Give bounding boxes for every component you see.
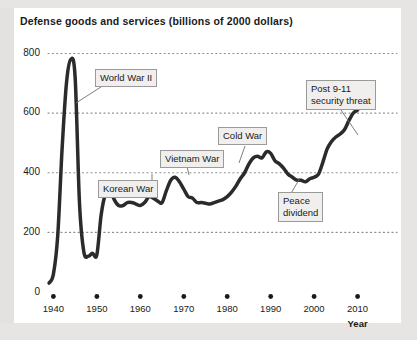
y-tick-label-800: 800 [10,47,40,58]
annotation-vietnam-war: Vietnam War [160,150,224,168]
annotation-peace-dividend: Peace dividend [278,192,323,222]
annotation-cold-war-label: Cold War [223,130,262,141]
x-tick-label-1990: 1990 [254,303,288,314]
y-tick-label-600: 600 [10,106,40,117]
annotation-post-911-line1: Post 9-11 [311,83,371,95]
x-tick-2010 [355,294,360,299]
leader-world-war-ii [76,85,104,103]
x-tick-2000 [312,294,317,299]
x-tick-label-1950: 1950 [80,303,114,314]
x-tick-marks [51,294,360,299]
annotation-post-911-line2: security threat [311,95,371,107]
x-tick-1970 [181,294,186,299]
annotation-world-war-ii-label: World War II [100,72,152,83]
x-tick-label-2000: 2000 [297,303,331,314]
annotation-post-911: Post 9-11 security threat [306,80,376,110]
x-axis-title: Year [338,318,378,329]
y-tick-label-0: 0 [10,286,40,297]
x-tick-label-2010: 2010 [341,303,375,314]
annotation-peace-dividend-line2: dividend [283,207,318,219]
x-tick-label-1970: 1970 [167,303,201,314]
x-tick-1980 [225,294,230,299]
x-tick-1940 [51,294,56,299]
x-tick-1960 [138,294,143,299]
x-tick-1950 [95,294,100,299]
chart-figure: Defense goods and services (billions of … [0,0,417,340]
annotation-peace-dividend-line1: Peace [283,195,318,207]
x-tick-label-1940: 1940 [36,303,70,314]
y-tick-label-400: 400 [10,166,40,177]
annotation-cold-war: Cold War [218,127,267,145]
plot-svg [0,0,417,340]
x-tick-1990 [268,294,273,299]
annotation-vietnam-war-label: Vietnam War [165,153,219,164]
x-tick-label-1980: 1980 [210,303,244,314]
leader-cold-war [239,146,245,163]
x-tick-label-1960: 1960 [123,303,157,314]
annotation-korean-war-label: Korean War [103,183,153,194]
annotation-korean-war: Korean War [98,180,158,198]
y-tick-label-200: 200 [10,226,40,237]
annotation-world-war-ii: World War II [95,69,157,87]
